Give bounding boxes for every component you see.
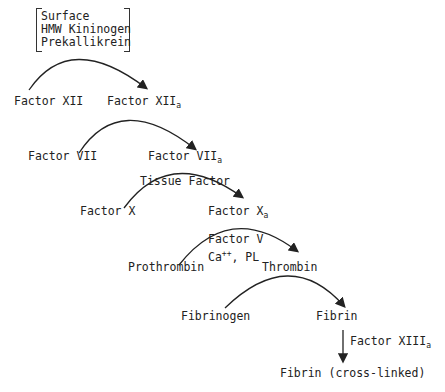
factor-x: Factor X [80,205,135,218]
arrow-xii [29,59,146,90]
fibrin: Fibrin [316,310,358,323]
ca-pl: Ca++, PL [208,247,259,264]
arrow-fibrinogen [225,276,344,308]
factor-v: Factor V [208,233,263,246]
factor-xiiia: Factor XIIIa [350,335,431,352]
factor-xiia: Factor XIIa [107,95,181,112]
factor-vii: Factor VII [28,150,97,163]
prothrombin: Prothrombin [128,261,204,274]
fibrin-cross-linked: Fibrin (cross-linked) [280,367,425,380]
fibrinogen: Fibrinogen [181,310,250,323]
tissue-factor: Tissue Factor [140,175,230,188]
factor-xii: Factor XII [14,95,83,108]
factor-xa: Factor Xa [208,205,268,222]
thrombin: Thrombin [262,261,317,274]
factor-viia: Factor VIIa [148,150,222,167]
